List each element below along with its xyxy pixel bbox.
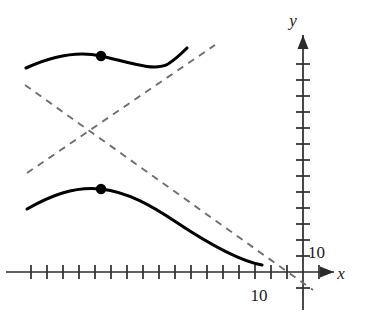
- vertex-markers-group: [96, 51, 106, 194]
- upper-vertex-dot: [96, 51, 106, 61]
- hyperbola-figure: x y 10 10: [0, 0, 372, 316]
- asymptote-falling-line: [25, 85, 313, 290]
- curves-group: [26, 48, 262, 265]
- y-axis-arrow-icon: [298, 35, 309, 49]
- x-axis-tick-label-10: 10: [251, 286, 268, 305]
- upper-branch-curve: [26, 48, 187, 68]
- lower-vertex-dot: [96, 184, 106, 194]
- x-axis-arrow-icon: [320, 267, 334, 278]
- asymptotes-group: [25, 45, 313, 290]
- y-axis-tick-label-10: 10: [308, 243, 325, 262]
- figure-canvas: x y 10 10: [0, 0, 372, 316]
- x-axis-label: x: [336, 264, 345, 283]
- lower-branch-curve: [27, 188, 262, 265]
- y-axis-label: y: [287, 11, 297, 30]
